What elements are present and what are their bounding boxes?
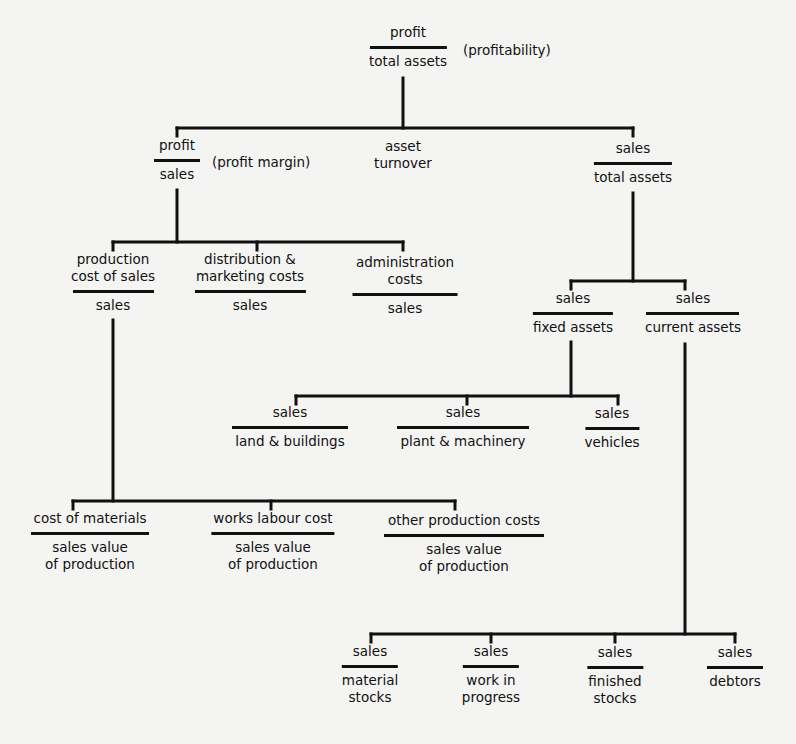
fraction-bar xyxy=(397,426,529,429)
numerator: sales xyxy=(232,404,348,421)
numerator-line2: cost of sales xyxy=(69,268,157,285)
ratio-fixed-assets: sales fixed assets xyxy=(531,290,615,336)
numerator: sales xyxy=(460,643,522,660)
numerator: sales xyxy=(582,405,641,422)
numerator-line2: costs xyxy=(353,271,458,288)
numerator: sales xyxy=(531,290,615,307)
numerator: profit xyxy=(367,24,449,41)
numerator: sales xyxy=(592,140,674,157)
ratio-profitability: profit total assets xyxy=(367,24,449,70)
denominator-line1: sales value xyxy=(211,539,334,556)
ratio-profit-margin: profit sales xyxy=(154,137,200,183)
asset-turnover: asset turnover xyxy=(372,138,434,172)
denominator: total assets xyxy=(592,169,674,186)
numerator: sales xyxy=(707,644,763,661)
denominator: sales xyxy=(353,300,458,317)
ratio-land-buildings: sales land & buildings xyxy=(232,404,348,450)
ratio-plant-machinery: sales plant & machinery xyxy=(397,404,529,450)
ratio-cost-of-materials: cost of materials sales value of product… xyxy=(31,510,149,573)
numerator: sales xyxy=(397,404,529,421)
numerator: sales xyxy=(643,290,743,307)
denominator-line2: of production xyxy=(31,556,149,573)
numerator-line1: administration xyxy=(353,254,458,271)
fraction-bar xyxy=(369,46,446,49)
fraction-bar xyxy=(707,666,763,669)
denominator-line1: sales value xyxy=(384,541,544,558)
label-line2: turnover xyxy=(372,155,434,172)
numerator: works labour cost xyxy=(211,510,334,527)
numerator-line2: marketing costs xyxy=(194,268,306,285)
denominator: vehicles xyxy=(582,434,641,451)
ratio-production-cost: production cost of sales sales xyxy=(69,251,157,314)
denominator-line1: sales value xyxy=(31,539,149,556)
ratio-administration: administration costs sales xyxy=(353,254,458,317)
ratio-debtors: sales debtors xyxy=(707,644,763,690)
fraction-bar xyxy=(585,427,639,430)
note-profit-margin: (profit margin) xyxy=(212,154,310,171)
ratio-vehicles: sales vehicles xyxy=(582,405,641,451)
denominator-line2: stocks xyxy=(586,690,643,707)
ratio-distribution-marketing: distribution & marketing costs sales xyxy=(194,251,306,314)
fraction-bar xyxy=(31,532,149,535)
denominator-line2: of production xyxy=(384,558,544,575)
fraction-bar xyxy=(647,312,740,315)
denominator-line2: stocks xyxy=(340,689,400,706)
denominator: sales xyxy=(194,297,306,314)
ratio-works-labour-cost: works labour cost sales value of product… xyxy=(211,510,334,573)
ratio-other-production-costs: other production costs sales value of pr… xyxy=(384,512,544,575)
denominator: plant & machinery xyxy=(397,433,529,450)
numerator: sales xyxy=(340,643,400,660)
denominator-line1: material xyxy=(340,672,400,689)
denominator: fixed assets xyxy=(531,319,615,336)
ratio-work-in-progress: sales work in progress xyxy=(460,643,522,706)
ratio-finished-stocks: sales finished stocks xyxy=(586,644,643,707)
note-profitability: (profitability) xyxy=(463,42,551,59)
denominator: total assets xyxy=(367,53,449,70)
ratio-current-assets: sales current assets xyxy=(643,290,743,336)
fraction-bar xyxy=(195,290,306,293)
connector-lines xyxy=(0,0,796,744)
denominator-line1: finished xyxy=(586,673,643,690)
fraction-bar xyxy=(353,293,458,296)
numerator: other production costs xyxy=(384,512,544,529)
fraction-bar xyxy=(594,162,672,165)
fraction-bar xyxy=(154,159,200,162)
fraction-bar xyxy=(73,290,154,293)
fraction-bar xyxy=(232,426,348,429)
numerator: profit xyxy=(154,137,200,154)
fraction-bar xyxy=(211,532,334,535)
numerator: sales xyxy=(586,644,643,661)
numerator: cost of materials xyxy=(31,510,149,527)
denominator: sales xyxy=(154,166,200,183)
fraction-bar xyxy=(463,665,519,668)
fraction-bar xyxy=(587,666,643,669)
label-line1: asset xyxy=(372,138,434,155)
numerator-line1: production xyxy=(69,251,157,268)
denominator-line1: work in xyxy=(460,672,522,689)
denominator: sales xyxy=(69,297,157,314)
ratio-sales-total-assets: sales total assets xyxy=(592,140,674,186)
denominator-line2: of production xyxy=(211,556,334,573)
denominator: current assets xyxy=(643,319,743,336)
denominator: land & buildings xyxy=(232,433,348,450)
fraction-bar xyxy=(384,534,544,537)
numerator-line1: distribution & xyxy=(194,251,306,268)
ratio-material-stocks: sales material stocks xyxy=(340,643,400,706)
fraction-bar xyxy=(533,312,613,315)
fraction-bar xyxy=(342,665,398,668)
denominator-line1: debtors xyxy=(707,673,763,690)
denominator-line2: progress xyxy=(460,689,522,706)
